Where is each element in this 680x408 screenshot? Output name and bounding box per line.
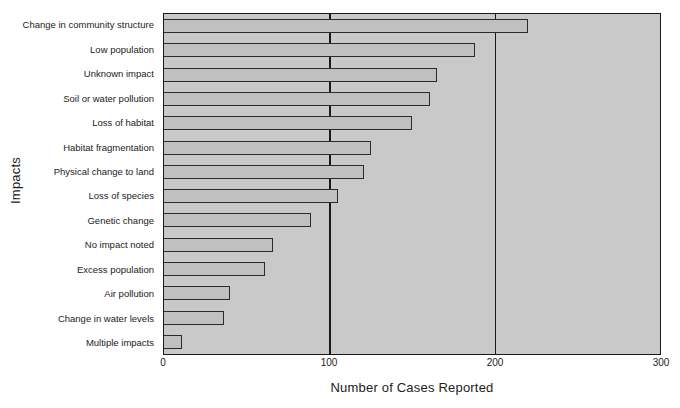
bar-row bbox=[164, 63, 660, 87]
bar[interactable] bbox=[164, 311, 224, 325]
bar[interactable] bbox=[164, 213, 311, 227]
bars bbox=[164, 14, 660, 354]
bar-row bbox=[164, 233, 660, 257]
bar[interactable] bbox=[164, 189, 338, 203]
bar-row bbox=[164, 160, 660, 184]
x-tick-label: 0 bbox=[160, 357, 166, 368]
x-tick-label: 100 bbox=[321, 357, 338, 368]
bar-row bbox=[164, 208, 660, 232]
bar[interactable] bbox=[164, 68, 437, 82]
bar-row bbox=[164, 330, 660, 354]
bar[interactable] bbox=[164, 141, 371, 155]
bar[interactable] bbox=[164, 43, 475, 57]
category-label: Genetic change bbox=[24, 208, 159, 232]
category-label: Physical change to land bbox=[24, 160, 159, 184]
category-label: Habitat fragmentation bbox=[24, 135, 159, 159]
bar[interactable] bbox=[164, 19, 528, 33]
category-label: Unknown impact bbox=[24, 62, 159, 86]
category-label: Loss of species bbox=[24, 184, 159, 208]
category-label: Loss of habitat bbox=[24, 111, 159, 135]
plot-area bbox=[163, 13, 661, 355]
category-label: Multiple impacts bbox=[24, 330, 159, 354]
x-axis-tick-labels: 0100200300 bbox=[163, 357, 661, 373]
bar-row bbox=[164, 184, 660, 208]
bar[interactable] bbox=[164, 262, 265, 276]
category-label: Change in community structure bbox=[24, 13, 159, 37]
bar-chart: Impacts Change in community structureLow… bbox=[0, 0, 680, 408]
bar-row bbox=[164, 281, 660, 305]
category-label: Air pollution bbox=[24, 282, 159, 306]
category-label: Change in water levels bbox=[24, 306, 159, 330]
bar-row bbox=[164, 38, 660, 62]
bar-row bbox=[164, 111, 660, 135]
category-axis-labels: Change in community structureLow populat… bbox=[24, 13, 159, 355]
category-label: Soil or water pollution bbox=[24, 86, 159, 110]
bar[interactable] bbox=[164, 335, 182, 349]
y-axis-title-text: Impacts bbox=[8, 157, 23, 204]
bar[interactable] bbox=[164, 238, 273, 252]
bar[interactable] bbox=[164, 116, 412, 130]
bar[interactable] bbox=[164, 286, 230, 300]
category-label: Low population bbox=[24, 37, 159, 61]
bar[interactable] bbox=[164, 165, 364, 179]
bar-row bbox=[164, 135, 660, 159]
bar-row bbox=[164, 257, 660, 281]
bar-row bbox=[164, 87, 660, 111]
x-tick-label: 300 bbox=[653, 357, 670, 368]
bar-row bbox=[164, 14, 660, 38]
bar-row bbox=[164, 305, 660, 329]
category-label: Excess population bbox=[24, 257, 159, 281]
x-tick-label: 200 bbox=[487, 357, 504, 368]
bar[interactable] bbox=[164, 92, 430, 106]
x-axis-title: Number of Cases Reported bbox=[163, 380, 661, 395]
category-label: No impact noted bbox=[24, 233, 159, 257]
plot-inner bbox=[164, 14, 660, 354]
